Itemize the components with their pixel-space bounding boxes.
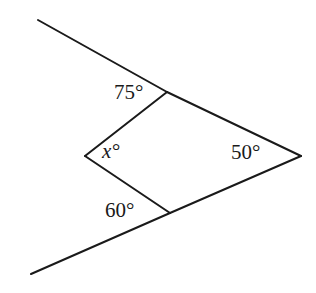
- angle-label-unknown-x: x°: [102, 141, 120, 162]
- geometry-canvas: [0, 0, 316, 293]
- geometry-figure: 75° x° 60° 50°: [0, 0, 316, 293]
- upper-ray-line: [38, 20, 167, 92]
- angle-label-right: 50°: [231, 142, 260, 163]
- angle-label-top: 75°: [114, 82, 143, 103]
- side-bottom-right: [170, 156, 301, 213]
- angle-label-bottom: 60°: [105, 200, 134, 221]
- lower-ray-line: [31, 213, 170, 274]
